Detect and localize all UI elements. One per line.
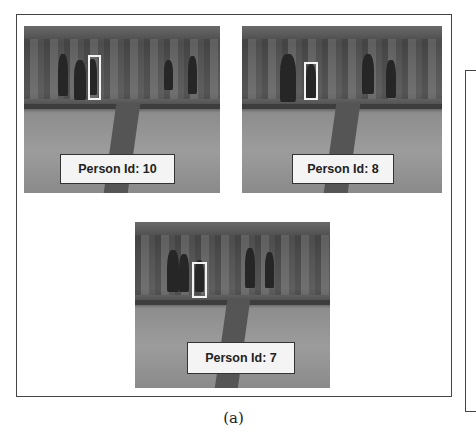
figure-caption: (a) <box>0 409 467 427</box>
person <box>179 254 189 292</box>
background-pillars <box>242 39 442 99</box>
person-id-label: Person Id: 10 <box>60 154 175 184</box>
person-id-label: Person Id: 7 <box>187 342 295 374</box>
person <box>386 60 396 98</box>
tracking-bounding-box <box>304 62 318 100</box>
surveillance-frame-top-right: Person Id: 8 <box>242 26 442 193</box>
surveillance-frame-top-left: Person Id: 10 <box>24 26 220 193</box>
person <box>362 54 374 94</box>
tracking-bounding-box <box>192 262 207 298</box>
person <box>167 250 179 292</box>
person <box>188 56 197 94</box>
surveillance-frame-bottom-center: Person Id: 7 <box>135 222 330 388</box>
person <box>164 60 173 90</box>
person <box>58 54 68 96</box>
tracking-bounding-box <box>88 55 101 100</box>
adjacent-figure-frame <box>465 70 476 412</box>
background-pillars <box>135 235 330 295</box>
person <box>245 248 255 288</box>
person <box>280 54 296 102</box>
person-id-label: Person Id: 8 <box>292 154 394 184</box>
person <box>265 252 274 288</box>
person <box>74 60 86 100</box>
